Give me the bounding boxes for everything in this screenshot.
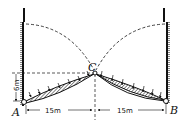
right-gate: [96, 74, 165, 100]
gate-diagram: C A B 6m 15m 15m: [0, 0, 185, 125]
right-open-arc: [96, 24, 165, 70]
right-span-dimension: 15m: [98, 104, 166, 115]
left-span-dimension: 15m: [26, 105, 92, 115]
left-span-label: 15m: [45, 107, 61, 115]
rise-label: 6m: [13, 80, 21, 91]
label-b: B: [169, 104, 178, 117]
hinge-a: [22, 100, 27, 105]
right-span-label: 15m: [117, 107, 133, 115]
label-c: C: [88, 61, 97, 74]
rise-dimension: 6m: [13, 74, 21, 101]
hinge-b: [164, 99, 169, 104]
label-a: A: [11, 106, 20, 119]
left-open-arc: [26, 24, 94, 70]
left-gate: [26, 74, 94, 103]
right-wall: [164, 8, 169, 104]
left-wall: [21, 8, 24, 106]
